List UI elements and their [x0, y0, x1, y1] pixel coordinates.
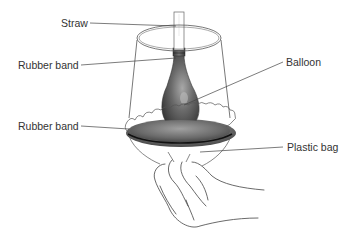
rubber-band-bottom-leader-line: [81, 126, 129, 129]
label-rubber-band-bottom: Rubber band: [18, 120, 79, 132]
label-rubber-band-top: Rubber band: [18, 59, 79, 71]
balloon-shape: [162, 54, 199, 130]
balloon-leader-line: [184, 62, 283, 105]
plastic-bag-leader-line: [200, 147, 283, 152]
straw-leader-line: [90, 23, 176, 26]
balloon-lung-model-diagram: Straw Rubber band Balloon Rubber band Pl…: [0, 0, 360, 246]
label-balloon: Balloon: [286, 56, 321, 68]
label-straw: Straw: [61, 17, 88, 29]
rubber-band-top-leader-line: [81, 58, 176, 65]
hand-drawing: [154, 160, 264, 227]
label-plastic-bag: Plastic bag: [287, 141, 338, 153]
straw-shape: [174, 12, 184, 50]
